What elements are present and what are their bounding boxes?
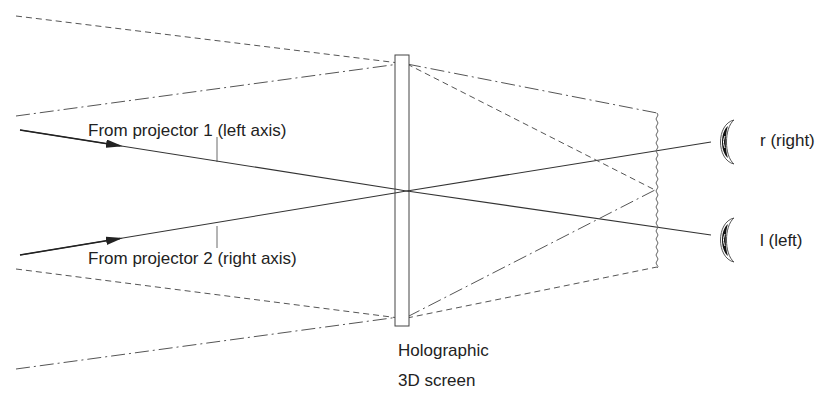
- dashdot-top-out: [407, 64, 657, 113]
- ray-to-left-eye: [407, 191, 711, 235]
- beam-edge-top-dashdot: [16, 64, 399, 116]
- beam-edge-top-dashed: [16, 16, 399, 63]
- eye-left-icon: [721, 218, 735, 262]
- screen-label-line1: Holographic: [398, 342, 489, 359]
- viewing-zone-wavy: [656, 113, 658, 268]
- projector1-label: From projector 1 (left axis): [88, 122, 286, 139]
- projector2-label: From projector 2 (right axis): [88, 250, 297, 267]
- diagram-canvas: [0, 0, 836, 399]
- eye-right-label: r (right): [760, 132, 815, 149]
- ray-to-right-eye: [407, 142, 711, 191]
- eye-right-icon: [721, 120, 735, 164]
- dashed-bottom-out: [407, 267, 657, 318]
- beam-edge-bottom-dashed: [16, 269, 399, 318]
- eye-left-label: l (left): [760, 232, 803, 249]
- screen-label-line2: 3D screen: [398, 372, 475, 389]
- beam-edge-bottom-dashdot: [16, 317, 399, 369]
